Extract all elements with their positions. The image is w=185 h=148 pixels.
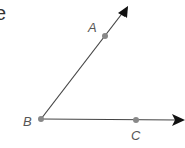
point-b (38, 116, 44, 122)
ray-ba (41, 11, 124, 119)
ray-bc (41, 119, 178, 120)
partial-text: e (0, 2, 6, 24)
label-c: C (131, 128, 141, 143)
label-a: A (87, 20, 97, 35)
label-b: B (23, 114, 32, 129)
angle-diagram: e A B C (0, 0, 185, 148)
point-c (133, 117, 139, 123)
point-a (102, 33, 108, 39)
